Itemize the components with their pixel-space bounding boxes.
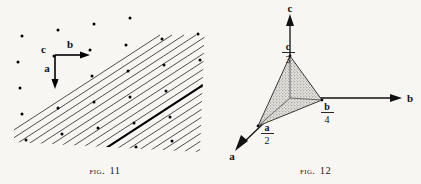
fig12-label-c: c <box>288 2 293 14</box>
intercept-a-numerator: a <box>265 122 270 133</box>
intercept-b-numerator: b <box>324 101 330 112</box>
intercept-label-b: b 4 <box>321 101 334 125</box>
figure-11: c b a Fig. 11 <box>0 0 210 184</box>
fig12-arrowheads <box>235 14 402 151</box>
intercept-label-a: a 2 <box>261 122 274 146</box>
intercept-b-denominator: 4 <box>325 114 330 125</box>
figure-12-caption: Fig. 12 <box>210 160 421 178</box>
intercept-a-denominator: 2 <box>265 135 270 146</box>
fig11-label-b: b <box>67 38 73 50</box>
fig12-label-b: b <box>407 92 413 104</box>
fig11-label-a: a <box>44 62 50 74</box>
intercept-c-denominator: 3 <box>286 54 291 65</box>
figure-page: c b a Fig. 11 <box>0 0 421 184</box>
a-arrowhead-icon <box>235 135 248 151</box>
figure-12-caption-word: Fig. <box>300 165 316 176</box>
figure-11-caption-number: 11 <box>110 165 121 176</box>
c-arrowhead-icon <box>286 14 294 26</box>
lattice-hatching <box>0 7 210 161</box>
figure-11-caption: Fig. 11 <box>0 160 210 178</box>
fig12-label-a: a <box>229 150 235 160</box>
figure-12-caption-number: 12 <box>320 165 331 176</box>
b-arrowhead-icon <box>80 52 90 59</box>
figure-11-graphic: c b a <box>0 0 210 160</box>
b-arrowhead-icon <box>390 94 402 102</box>
intercept-c-numerator: c <box>286 41 291 52</box>
fig11-axis-indicator: c b a <box>41 38 90 89</box>
figure-11-caption-word: Fig. <box>90 165 106 176</box>
a-arrowhead-icon <box>52 79 59 89</box>
figure-12-graphic: c b a c 3 b 4 a 2 <box>210 0 421 160</box>
fig11-label-c: c <box>41 43 46 55</box>
figure-12: c b a c 3 b 4 a 2 Fig. 1 <box>210 0 421 184</box>
